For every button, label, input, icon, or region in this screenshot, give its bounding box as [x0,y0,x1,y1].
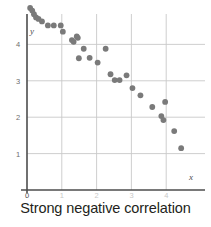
data-point [45,23,51,29]
gridlines [27,14,205,190]
data-point [171,128,177,134]
data-point [39,19,45,25]
data-point [81,46,87,52]
data-point [162,99,168,105]
x-tick-label: 3 [129,191,133,200]
tick-labels: 012341234 [16,40,168,200]
y-tick-label: 3 [16,77,20,86]
data-point [117,77,123,83]
y-tick-label: 1 [16,150,20,159]
axes [21,14,205,193]
axis-name-labels: x y [29,26,193,182]
figure-caption: Strong negative correlation [0,200,211,216]
data-point [60,29,66,35]
y-axis-label: y [29,26,34,36]
data-point [87,55,93,61]
scatter-plot-figure: 012341234 x y Strong negative correlatio… [0,0,211,227]
data-point [108,71,114,77]
data-point [75,35,81,41]
data-points-group [27,5,184,151]
data-point [124,72,130,78]
data-point [103,46,109,52]
scatter-plot-svg: 012341234 x y [0,0,211,200]
x-tick-label: 1 [60,191,64,200]
x-tick-label: 4 [164,191,168,200]
data-point [161,117,167,123]
data-point [149,104,155,110]
y-tick-label: 4 [16,40,20,49]
x-tick-label: 2 [95,191,99,200]
data-point [58,23,64,29]
data-point [95,60,101,66]
data-point [76,55,82,61]
x-axis-label: x [188,172,193,182]
data-point [138,92,144,98]
y-tick-label: 2 [16,113,20,122]
x-tick-label: 0 [25,191,29,200]
data-point [71,39,77,45]
data-point [178,145,184,151]
plot-area: 012341234 x y [0,0,211,200]
data-point [130,85,136,91]
data-point [51,23,57,29]
